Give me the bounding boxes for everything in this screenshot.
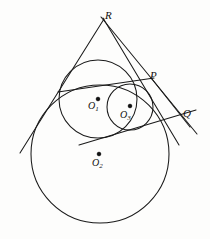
label-point-R: R bbox=[105, 10, 112, 21]
label-point-P: P bbox=[150, 70, 157, 81]
chord-P-to-left bbox=[58, 78, 154, 92]
tangent-P-to-Q-lower bbox=[152, 79, 190, 127]
center-dots-group bbox=[96, 97, 132, 156]
label-center-O1: O1 bbox=[88, 101, 99, 111]
label-center-O3-subscript: 3 bbox=[127, 114, 131, 122]
lines-group bbox=[20, 17, 197, 153]
label-center-O2: O2 bbox=[92, 158, 103, 168]
center-dot-o3 bbox=[128, 104, 132, 108]
label-point-P-text: P bbox=[150, 69, 157, 81]
label-point-R-text: R bbox=[105, 9, 112, 21]
label-point-Q: Q bbox=[183, 108, 191, 119]
label-center-O3: O3 bbox=[120, 110, 131, 120]
label-center-O1-subscript: 1 bbox=[95, 105, 99, 113]
center-dot-o2 bbox=[97, 152, 101, 156]
label-center-O2-subscript: 2 bbox=[99, 162, 103, 170]
geometry-figure: R P Q O1 O2 O3 bbox=[0, 0, 210, 239]
circles-group bbox=[31, 60, 169, 223]
geometry-canvas bbox=[0, 0, 210, 239]
label-point-Q-text: Q bbox=[183, 107, 191, 119]
tangent-lower-to-Q bbox=[79, 110, 196, 145]
